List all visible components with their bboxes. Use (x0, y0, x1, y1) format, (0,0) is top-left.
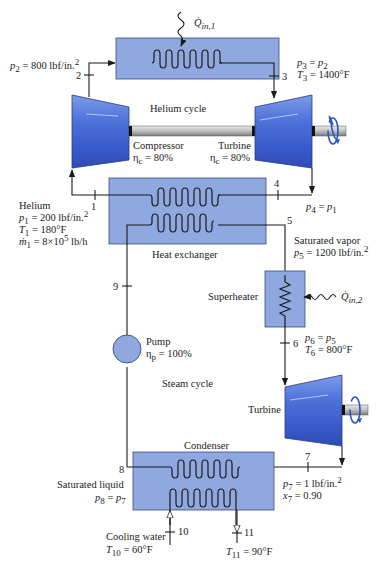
state-1-mass-flow: ṁ1 = 8×105 lb/h (19, 233, 88, 250)
state-1-number: 1 (91, 201, 96, 212)
state-6-temperature: T6 = 800°F (305, 344, 352, 358)
condenser: Condenser (133, 440, 274, 525)
saturated-liquid-label: Saturated liquid (57, 479, 125, 490)
cooling-water-label: Cooling water (106, 531, 166, 542)
pump-label: Pump (146, 336, 171, 347)
state-9-number: 9 (113, 281, 118, 292)
heat-input-1-label: Q̇in,1 (194, 17, 215, 31)
compressor-body (72, 95, 129, 168)
heat-exchanger: Heat exchanger (109, 178, 266, 260)
pump-efficiency: ηp = 100% (146, 348, 192, 362)
state-7-quality: x7 = 0.90 (282, 490, 322, 504)
state-10-temperature: T10 = 60°F (106, 544, 153, 558)
heat-exchanger-label: Heat exchanger (152, 249, 218, 260)
state-1-info: Helium p1 = 200 lbf/in.2 T1 = 180°F ṁ1 =… (18, 200, 88, 250)
steam-turbine-body (285, 375, 342, 446)
helium-label: Helium (19, 200, 51, 211)
pipe-state-2 (89, 63, 115, 97)
state-2-number: 2 (76, 70, 81, 81)
state-11-temperature: T11 = 90°F (226, 546, 272, 560)
power-plant-diagram: Q̇in,1 2 p2 = 800 lbf/in.2 3 p3 = p2 T3 … (0, 0, 384, 564)
saturated-vapor-label: Saturated vapor (294, 235, 361, 246)
helium-cycle-label: Helium cycle (150, 103, 207, 114)
condenser-label: Condenser (184, 440, 229, 451)
state-4-number: 4 (274, 178, 280, 189)
state-10-number: 10 (178, 526, 189, 537)
state-3-number: 3 (282, 71, 287, 82)
helium-heater: Q̇in,1 (116, 12, 279, 79)
state-3-temperature: T3 = 1400°F (297, 69, 350, 83)
state-8-number: 8 (119, 464, 124, 475)
heat-input-2-arrow (304, 295, 336, 300)
helium-turbine-label: Turbine (218, 140, 251, 151)
compressor-efficiency: ηc = 80% (133, 152, 173, 166)
pump-body (113, 335, 141, 363)
superheater-label: Superheater (208, 291, 259, 302)
state-7-number: 7 (305, 451, 310, 462)
state-4-pressure: p4 = p1 (305, 201, 337, 215)
helium-turbine-body (255, 95, 312, 168)
pump: Pump ηp = 100% (113, 335, 192, 363)
steam-turbine-label: Turbine (248, 404, 281, 415)
compressor-label: Compressor (133, 140, 184, 151)
state-2-pressure: p2 = 800 lbf/in.2 (9, 57, 79, 74)
helium-shaft (129, 126, 255, 136)
state-5-number: 5 (287, 215, 292, 226)
superheater: Q̇in,2 Superheater (208, 271, 363, 327)
state-5-pressure: p5 = 1200 lbf/in.2 (293, 244, 368, 261)
state-8-pressure: p8 = p7 (94, 492, 126, 506)
steam-cycle-label: Steam cycle (162, 378, 213, 389)
helium-turbine (255, 95, 346, 168)
heat-input-2-label: Q̇in,2 (341, 291, 363, 305)
helium-turbine-efficiency: ηc = 80% (210, 152, 250, 166)
steam-turbine: Turbine (248, 375, 368, 446)
helium-heater-box (116, 38, 279, 79)
state-11-number: 11 (244, 527, 254, 538)
heat-exchanger-box (109, 178, 266, 244)
state-6-number: 6 (293, 338, 298, 349)
helium-compressor (72, 95, 129, 168)
